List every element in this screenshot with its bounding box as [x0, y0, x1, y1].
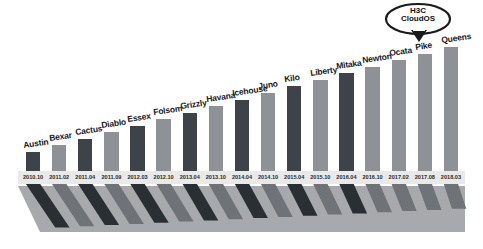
tick-label-2011-09: 2011.09 — [97, 174, 125, 180]
tick-label-2014-10: 2014.10 — [254, 174, 282, 180]
h3c-cloudos-callout[interactable]: H3C CloudOS — [381, 2, 455, 42]
tick-label-2016-10: 2016.10 — [359, 174, 387, 180]
bar-label-folsom: Folsom — [153, 103, 183, 117]
bar-label-austin: Austin — [22, 137, 48, 150]
bar-label-diablo: Diablo — [101, 117, 127, 130]
bar-grizzly[interactable] — [183, 113, 197, 171]
tick-label-2012-03: 2012.03 — [124, 174, 152, 180]
bar-essex[interactable] — [130, 126, 144, 171]
tick-label-2016-04: 2016.04 — [332, 174, 360, 180]
bar-label-ocata: Ocata — [388, 45, 412, 58]
bar-icehouse[interactable] — [235, 100, 249, 172]
bar-newton[interactable] — [365, 67, 379, 171]
bar-ocata[interactable] — [392, 60, 406, 171]
tick-label-2017-02: 2017.02 — [385, 174, 413, 180]
bar-mitaka[interactable] — [339, 73, 353, 171]
bar-havana[interactable] — [209, 106, 223, 171]
tick-label-2013-04: 2013.04 — [176, 174, 204, 180]
bar-bexar[interactable] — [52, 145, 66, 171]
callout-line-2: CloudOS — [381, 15, 455, 23]
tick-label-2014-04: 2014.04 — [228, 174, 256, 180]
tick-label-2017-08: 2017.08 — [411, 174, 439, 180]
bar-diablo[interactable] — [104, 132, 118, 171]
bar-label-kilo: Kilo — [284, 72, 301, 84]
tick-label-2011-04: 2011.04 — [71, 174, 99, 180]
bar-label-bexar: Bexar — [49, 130, 73, 143]
bar-label-essex: Essex — [127, 111, 152, 124]
tick-label-2012-10: 2012.10 — [150, 174, 178, 180]
tick-label-2011-02: 2011.02 — [45, 174, 73, 180]
bar-juno[interactable] — [261, 93, 275, 171]
bar-label-cactus: Cactus — [75, 123, 103, 137]
bar-label-newton: Newton — [362, 51, 393, 65]
bar-kilo[interactable] — [287, 86, 301, 171]
bar-queens[interactable] — [444, 47, 458, 171]
bar-label-havana: Havana — [205, 90, 235, 104]
bar-label-juno: Juno — [258, 78, 279, 91]
bar-pike[interactable] — [418, 54, 432, 171]
tick-label-2015-10: 2015.10 — [306, 174, 334, 180]
bar-folsom[interactable] — [156, 119, 170, 171]
tick-label-2013-10: 2013.10 — [202, 174, 230, 180]
bar-label-grizzly: Grizzly — [179, 97, 207, 111]
bar-austin[interactable] — [26, 152, 40, 171]
bar-liberty[interactable] — [313, 80, 327, 171]
tick-label-2018-03: 2018.03 — [437, 174, 465, 180]
tick-label-2010-10: 2010.10 — [19, 174, 47, 180]
bar-label-liberty: Liberty — [310, 64, 338, 78]
bar-cactus[interactable] — [78, 139, 92, 171]
tick-label-2015-04: 2015.04 — [280, 174, 308, 180]
openstack-release-timeline-chart: Austin2010.10Bexar2011.02Cactus2011.04Di… — [0, 0, 483, 249]
bar-label-mitaka: Mitaka — [336, 58, 362, 71]
